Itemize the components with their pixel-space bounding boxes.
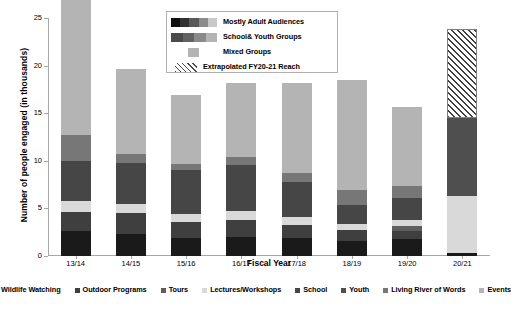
series-legend-swatch (75, 288, 80, 293)
bar-segment[interactable] (61, 201, 91, 212)
legend-label: Mixed Groups (223, 48, 271, 56)
series-legend-item[interactable]: Outdoor Programs (75, 286, 147, 294)
bar-segment[interactable] (337, 230, 367, 240)
series-legend-label: Wildlife Watching (1, 286, 61, 294)
stacked-bar[interactable] (282, 83, 312, 256)
series-legend-label: Living River of Words (391, 286, 465, 294)
bar-segment[interactable] (392, 198, 422, 220)
bar-segment[interactable] (337, 190, 367, 204)
bar-segment[interactable] (282, 173, 312, 182)
y-tick-label: 20 (34, 62, 42, 70)
bar-segment[interactable] (392, 220, 422, 227)
legend-label: School& Youth Groups (223, 33, 302, 41)
legend-item[interactable]: Mixed Groups (171, 45, 333, 59)
extrapolated-segment[interactable] (447, 29, 477, 118)
stacked-bar[interactable] (337, 80, 367, 256)
bar-segment[interactable] (226, 157, 256, 165)
bar-segment[interactable] (171, 238, 201, 256)
bar-segment[interactable] (61, 161, 91, 201)
stacked-bar[interactable] (116, 69, 146, 256)
legend-swatch (171, 18, 217, 27)
bar-segment[interactable] (61, 135, 91, 161)
legend-label: Mostly Adult Audiences (223, 18, 304, 26)
bar-segment[interactable] (171, 170, 201, 214)
bar-segment[interactable] (447, 118, 477, 195)
audience-legend: Mostly Adult AudiencesSchool& Youth Grou… (166, 11, 338, 73)
bar-segment[interactable] (282, 83, 312, 173)
y-tick-label: 0 (38, 252, 42, 260)
series-legend: Wildlife WatchingOutdoor ProgramsToursLe… (0, 286, 504, 294)
legend-item[interactable]: Mostly Adult Audiences (171, 15, 333, 29)
series-legend-label: Events (487, 286, 511, 294)
series-legend-label: Outdoor Programs (83, 286, 147, 294)
bar-segment[interactable] (116, 213, 146, 234)
bar-segment[interactable] (171, 222, 201, 238)
bar-segment[interactable] (171, 164, 201, 171)
bar-segment[interactable] (226, 220, 256, 237)
bar-segment[interactable] (226, 211, 256, 220)
bar-segment[interactable] (337, 80, 367, 190)
bar-segment[interactable] (226, 165, 256, 212)
bar-segment[interactable] (392, 239, 422, 256)
series-legend-swatch (202, 288, 207, 293)
series-legend-swatch (161, 288, 166, 293)
bar-segment[interactable] (171, 214, 201, 222)
stacked-bar[interactable] (392, 107, 422, 256)
series-legend-item[interactable]: School (295, 286, 327, 294)
y-tick-label: 5 (38, 205, 42, 213)
stacked-bar[interactable] (171, 95, 201, 256)
legend-swatch (171, 33, 217, 42)
bar-segment[interactable] (282, 238, 312, 256)
bar-segment[interactable] (61, 212, 91, 231)
series-legend-label: Youth (349, 286, 369, 294)
bar-segment[interactable] (61, 231, 91, 256)
series-legend-label: Tours (169, 286, 188, 294)
stacked-bar[interactable] (447, 118, 477, 256)
series-legend-swatch (383, 288, 388, 293)
stacked-bar[interactable] (226, 83, 256, 256)
bar-segment[interactable] (116, 154, 146, 163)
y-tick-label: 10 (34, 157, 42, 165)
bar-segment[interactable] (116, 163, 146, 204)
series-legend-item[interactable]: Living River of Words (383, 286, 465, 294)
bar-segment[interactable] (282, 225, 312, 238)
x-axis-title: Fiscal Year (48, 258, 490, 268)
series-legend-label: Lectures/Workshops (210, 286, 281, 294)
legend-swatch (171, 48, 217, 57)
series-legend-item[interactable]: Wildlife Watching (0, 286, 61, 294)
bar-segment[interactable] (337, 224, 367, 231)
bar-segment[interactable] (226, 237, 256, 256)
bar-segment[interactable] (116, 204, 146, 214)
y-axis-title: Number of people engaged (in thousands) (19, 15, 29, 255)
bar-segment[interactable] (171, 95, 201, 164)
legend-item[interactable]: School& Youth Groups (171, 30, 333, 44)
bar-segment[interactable] (116, 69, 146, 154)
bar-segment[interactable] (282, 182, 312, 217)
series-legend-swatch (295, 288, 300, 293)
bar-segment[interactable] (337, 205, 367, 224)
bar-segment[interactable] (337, 241, 367, 256)
legend-label: Extrapolated FY20-21 Reach (203, 63, 300, 71)
legend-swatch (175, 63, 197, 72)
y-tick-label: 15 (34, 109, 42, 117)
legend-item[interactable]: Extrapolated FY20-21 Reach (171, 60, 333, 74)
bar-segment[interactable] (116, 234, 146, 256)
y-tick (44, 256, 48, 257)
series-legend-label: School (303, 286, 327, 294)
bar-segment[interactable] (447, 196, 477, 253)
series-legend-item[interactable]: Events (479, 286, 511, 294)
series-legend-item[interactable]: Lectures/Workshops (202, 286, 281, 294)
bar-segment[interactable] (392, 231, 422, 239)
series-legend-swatch (479, 288, 484, 293)
bar-segment[interactable] (61, 0, 91, 135)
bar-segment[interactable] (226, 83, 256, 157)
bar-segment[interactable] (392, 186, 422, 198)
bar-segment[interactable] (392, 107, 422, 186)
stacked-bar[interactable] (61, 0, 91, 256)
series-legend-item[interactable]: Youth (341, 286, 369, 294)
y-tick-label: 25 (34, 14, 42, 22)
series-legend-swatch (341, 288, 346, 293)
bar-segment[interactable] (282, 217, 312, 225)
series-legend-item[interactable]: Tours (161, 286, 188, 294)
